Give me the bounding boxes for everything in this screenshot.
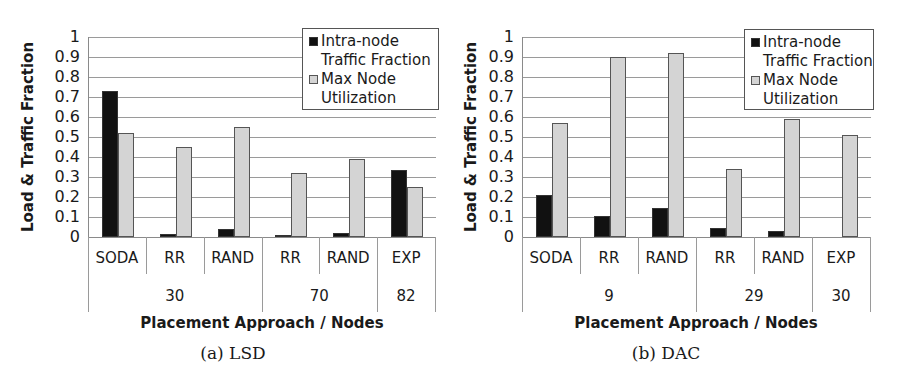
gridline	[89, 137, 436, 138]
y-tick-label: 0.6	[40, 109, 80, 125]
y-tick-label: 1	[40, 29, 80, 45]
bar-intra-node-traffic	[652, 208, 668, 237]
category-label: SODA	[88, 249, 146, 267]
y-tick-label: 0.3	[474, 169, 514, 185]
group-label-nodes: 82	[377, 287, 435, 305]
category-divider	[146, 237, 147, 274]
legend: Intra-node Traffic Fraction Max Node Uti…	[302, 28, 439, 110]
gridline	[89, 217, 436, 218]
gridline	[523, 217, 871, 218]
category-divider	[638, 237, 639, 274]
category-label: EXP	[377, 249, 435, 267]
group-label-nodes: 70	[262, 287, 378, 305]
category-divider	[580, 237, 581, 274]
y-tick-label: 0.2	[40, 189, 80, 205]
y-tick-label: 0.7	[40, 89, 80, 105]
bar-intra-node-traffic	[594, 216, 610, 237]
category-divider	[754, 237, 755, 274]
legend-label: Intra-node Traffic Fraction	[763, 33, 873, 71]
gridline	[89, 117, 436, 118]
dark-square-icon	[751, 38, 760, 47]
gridline	[523, 177, 871, 178]
bar-intra-node-traffic	[218, 229, 234, 237]
category-label: RAND	[319, 249, 377, 267]
category-label: RAND	[204, 249, 262, 267]
category-label: RR	[696, 249, 754, 267]
y-tick-label: 0.5	[474, 129, 514, 145]
chart-dac: Load & Traffic Fraction 00.10.20.30.40.5…	[450, 0, 902, 388]
group-label-nodes: 29	[696, 287, 812, 305]
category-divider	[319, 237, 320, 274]
light-square-icon	[309, 75, 318, 84]
group-label-nodes: 30	[88, 287, 262, 305]
legend-label: Intra-node Traffic Fraction	[321, 32, 431, 70]
y-tick-label: 0.8	[40, 69, 80, 85]
y-tick-label: 0.2	[474, 189, 514, 205]
legend-item-max-node: Max Node Utilization	[309, 70, 433, 108]
gridline	[89, 177, 436, 178]
y-tick-label: 0.5	[40, 129, 80, 145]
y-tick-label: 0.9	[474, 49, 514, 65]
category-label: RR	[146, 249, 204, 267]
y-tick-label: 0	[474, 229, 514, 245]
figure-caption: (a) LSD	[183, 343, 283, 363]
bar-intra-node-traffic	[391, 170, 407, 237]
figure-caption: (b) DAC	[616, 343, 716, 363]
legend-item-intra-node: Intra-node Traffic Fraction	[309, 32, 433, 70]
y-axis-label: Load & Traffic Fraction	[19, 37, 37, 237]
gridline	[523, 197, 871, 198]
y-tick-label: 0.4	[40, 149, 80, 165]
gridline	[89, 157, 436, 158]
legend: Intra-node Traffic Fraction Max Node Uti…	[744, 29, 874, 110]
category-label: RR	[262, 249, 320, 267]
bar-max-node-utilization	[407, 187, 423, 237]
category-label: RAND	[638, 249, 696, 267]
bar-max-node-utilization	[610, 57, 626, 237]
bar-max-node-utilization	[118, 133, 134, 237]
legend-label: Max Node Utilization	[321, 70, 396, 108]
category-label: RR	[580, 249, 638, 267]
bar-max-node-utilization	[784, 119, 800, 237]
y-tick-label: 0.3	[40, 169, 80, 185]
legend-item-intra-node: Intra-node Traffic Fraction	[751, 33, 868, 71]
y-tick-label: 0.8	[474, 69, 514, 85]
group-label-nodes: 30	[812, 287, 870, 305]
dark-square-icon	[309, 37, 318, 46]
y-tick-label: 0	[40, 229, 80, 245]
category-label: RAND	[754, 249, 812, 267]
bar-max-node-utilization	[842, 135, 858, 237]
category-label: SODA	[522, 249, 580, 267]
bar-max-node-utilization	[349, 159, 365, 237]
bar-max-node-utilization	[234, 127, 250, 237]
y-tick-label: 0.1	[40, 209, 80, 225]
gridline	[89, 197, 436, 198]
bar-intra-node-traffic	[710, 228, 726, 237]
gridline	[523, 137, 871, 138]
light-square-icon	[751, 76, 760, 85]
y-tick-label: 0.7	[474, 89, 514, 105]
y-tick-label: 0.4	[474, 149, 514, 165]
bar-max-node-utilization	[668, 53, 684, 237]
bar-max-node-utilization	[726, 169, 742, 237]
category-divider	[435, 237, 436, 312]
group-label-nodes: 9	[522, 287, 696, 305]
category-divider	[870, 237, 871, 312]
bar-max-node-utilization	[176, 147, 192, 237]
bar-max-node-utilization	[552, 123, 568, 237]
legend-label: Max Node Utilization	[763, 71, 838, 109]
gridline	[523, 157, 871, 158]
category-label: EXP	[812, 249, 870, 267]
y-tick-label: 0.6	[474, 109, 514, 125]
y-tick-label: 1	[474, 29, 514, 45]
bar-max-node-utilization	[291, 173, 307, 237]
gridline	[523, 117, 871, 118]
x-axis-title: Placement Approach / Nodes	[112, 314, 412, 332]
bar-intra-node-traffic	[536, 195, 552, 237]
chart-lsd: Load & Traffic Fraction 00.10.20.30.40.5…	[0, 0, 450, 388]
y-tick-label: 0.9	[40, 49, 80, 65]
legend-item-max-node: Max Node Utilization	[751, 71, 868, 109]
category-divider	[204, 237, 205, 274]
bar-intra-node-traffic	[102, 91, 118, 237]
y-tick-label: 0.1	[474, 209, 514, 225]
x-axis-title: Placement Approach / Nodes	[546, 314, 846, 332]
